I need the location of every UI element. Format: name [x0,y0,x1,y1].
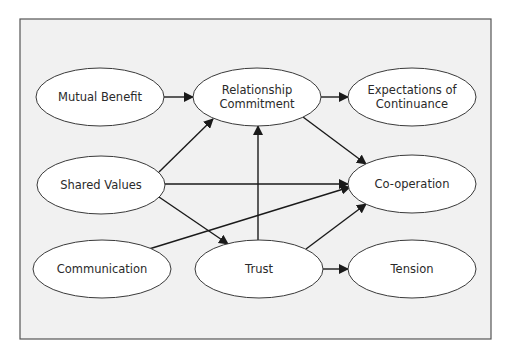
node-relationship-commitment: RelationshipCommitment [193,68,321,126]
node-label: Mutual Benefit [58,90,142,104]
node-mutual-benefit: Mutual Benefit [36,68,164,126]
node-trust: Trust [195,240,323,298]
node-label: Tension [390,262,434,276]
node-tension: Tension [348,240,476,298]
node-label: Relationship [222,83,293,97]
node-label: Expectations of [367,83,457,97]
node-label: Trust [244,262,273,276]
node-label: Shared Values [60,178,142,192]
node-shared-values: Shared Values [37,156,165,214]
diagram-canvas: Mutual BenefitRelationshipCommitmentExpe… [0,0,508,356]
node-expectations-of-continuance: Expectations ofContinuance [348,68,476,126]
node-communication: Communication [33,240,171,298]
node-label: Continuance [376,97,448,111]
node-label: Co-operation [375,177,450,191]
node-label: Commitment [219,97,295,111]
node-label: Communication [57,262,148,276]
node-co-operation: Co-operation [348,155,476,213]
